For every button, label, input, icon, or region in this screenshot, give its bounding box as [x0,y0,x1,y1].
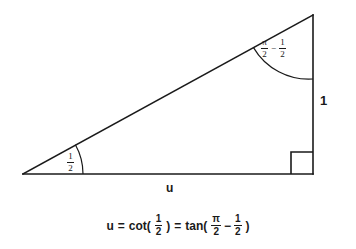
fraction-denominator: 2 [261,49,268,59]
fraction-denominator: 2 [279,49,286,59]
side-label-base: u [166,182,173,194]
fraction-one-half: 1 2 [279,38,286,59]
equation-cot-open: cot( [129,220,151,232]
equation-tan-open: tan( [185,220,207,232]
equation-equals-1: = [118,220,125,232]
fraction-numerator: 1 [279,38,286,48]
fraction-numerator: π [261,38,268,48]
fraction-pi-over-two: π 2 [261,38,268,59]
minus-operator: − [268,44,279,53]
fraction-numerator: 1 [67,152,74,162]
equation-equals-2: = [174,220,181,232]
fraction-numerator: 1 [234,214,242,225]
triangle-figure [0,0,356,249]
equation-line: u = cot( 1 2 ) = tan( π 2 − 1 2 ) [106,214,249,237]
equation-tan-close: ) [246,220,250,232]
fraction-one-half: 1 2 [67,152,74,173]
fraction-denominator: 2 [212,226,220,237]
equation-cot-close: ) [166,220,170,232]
minus-operator: − [221,220,234,232]
figure-background [0,0,356,249]
fraction-one-half: 1 2 [234,214,242,237]
fraction-one-half: 1 2 [155,214,163,237]
fraction-numerator: π [211,214,221,225]
equation-variable-u: u [106,220,113,232]
fraction-denominator: 2 [234,226,242,237]
fraction-denominator: 2 [155,226,163,237]
side-label-right: 1 [320,94,327,107]
fraction-pi-over-two: π 2 [211,214,221,237]
equation-caption: u = cot( 1 2 ) = tan( π 2 − 1 2 ) [0,214,356,237]
fraction-denominator: 2 [67,163,74,173]
angle-label-left: 1 2 [67,152,74,173]
fraction-numerator: 1 [155,214,163,225]
angle-label-top: π 2 − 1 2 [261,38,286,59]
